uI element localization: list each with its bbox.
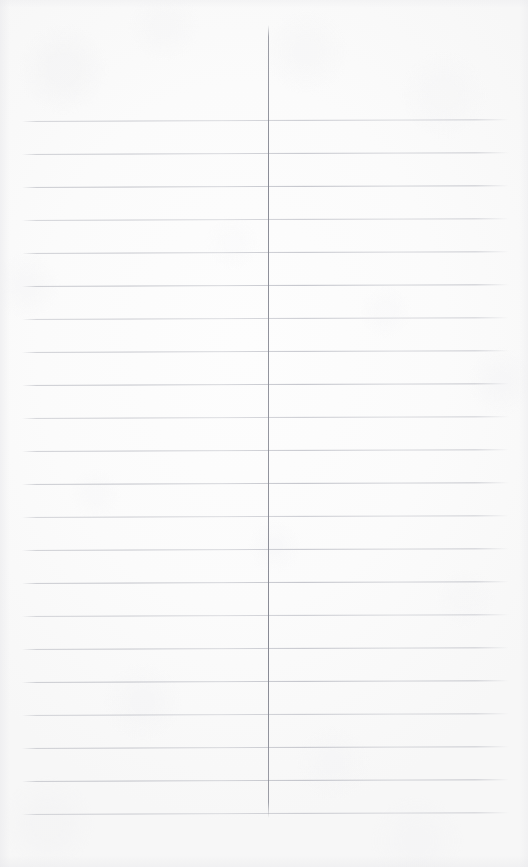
lined-page <box>0 0 528 867</box>
writing-area[interactable] <box>22 121 509 815</box>
